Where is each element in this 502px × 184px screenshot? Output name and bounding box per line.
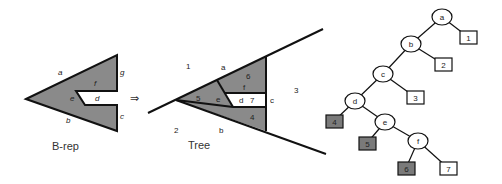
brep-caption: B-rep bbox=[52, 140, 79, 152]
leaf-label: 2 bbox=[441, 61, 446, 70]
tree-leaf-5: 5 bbox=[359, 137, 376, 150]
brep-edge-g: g bbox=[120, 68, 125, 77]
region-label-7: 7 bbox=[250, 96, 255, 105]
edge-label-d: d bbox=[239, 96, 243, 105]
tree-node-d: d bbox=[345, 93, 365, 109]
edge-label-c: c bbox=[270, 96, 274, 105]
edge-label-e: e bbox=[216, 95, 221, 104]
brep-edge-a: a bbox=[58, 68, 63, 77]
tree-leaf-2: 2 bbox=[435, 58, 452, 71]
tree-node-b: b bbox=[401, 36, 421, 52]
implies-arrow: ⇒ bbox=[130, 92, 139, 104]
leaf-label: 4 bbox=[332, 118, 337, 127]
region-label-6: 6 bbox=[246, 72, 251, 81]
brep-edge-c: c bbox=[120, 112, 124, 121]
tree-caption: Tree bbox=[188, 139, 210, 151]
edge-label-a: a bbox=[221, 63, 226, 72]
leaf-label: 6 bbox=[404, 165, 409, 174]
tree-node-a: a bbox=[432, 9, 452, 25]
leaf-label: 3 bbox=[413, 94, 418, 103]
tree-leaf-1: 1 bbox=[460, 31, 477, 44]
brep-edge-e: e bbox=[70, 94, 75, 103]
brep-panel: a g f e d c b B-rep bbox=[26, 55, 125, 152]
leaf-label: 5 bbox=[365, 140, 370, 149]
node-label: c bbox=[381, 70, 385, 79]
region-label-3: 3 bbox=[294, 86, 299, 95]
tree-leaf-7: 7 bbox=[440, 162, 457, 175]
node-label: d bbox=[353, 97, 357, 106]
partition-panel: 1 2 3 4 5 6 7 a b c d e f Tree bbox=[148, 29, 326, 154]
tree-node-c: c bbox=[373, 66, 393, 82]
tree-leaf-3: 3 bbox=[407, 91, 424, 104]
node-label: a bbox=[440, 13, 445, 22]
region-label-4: 4 bbox=[250, 113, 255, 122]
region-label-5: 5 bbox=[196, 94, 201, 103]
tree-node-f: f bbox=[408, 133, 428, 149]
brep-shape bbox=[26, 55, 117, 131]
tree-leaf-4: 4 bbox=[326, 115, 343, 128]
brep-edge-d: d bbox=[95, 94, 100, 103]
region-label-2: 2 bbox=[174, 126, 179, 135]
tree-node-e: e bbox=[375, 114, 395, 130]
region-label-1: 1 bbox=[186, 62, 191, 71]
brep-edge-b: b bbox=[66, 116, 71, 125]
node-label: b bbox=[409, 40, 414, 49]
leaf-label: 7 bbox=[446, 165, 451, 174]
leaf-label: 1 bbox=[466, 34, 471, 43]
node-label: e bbox=[383, 118, 388, 127]
tree-leaf-6: 6 bbox=[398, 162, 415, 175]
diagram-canvas: a g f e d c b B-rep ⇒ 1 2 3 4 5 6 7 a bbox=[0, 0, 502, 184]
edge-label-b: b bbox=[219, 126, 224, 135]
